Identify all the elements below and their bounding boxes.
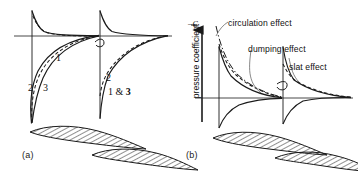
- main-curve-2: [32, 36, 99, 123]
- annotation-circulation-effect: circulation effect: [228, 18, 292, 28]
- main-curve-1: [32, 36, 99, 123]
- y-axis-title: pressure coefficient: [191, 11, 201, 111]
- flap-airfoil: [275, 152, 358, 172]
- dumping-leader-line: [250, 50, 261, 93]
- main-lower-surface-curve: [219, 98, 282, 128]
- flap-suction-solid: [283, 47, 351, 97]
- curve-crossing-loop: [277, 82, 287, 90]
- main-lower-surface-dashed: [33, 16, 99, 36]
- curve-label-2: 2: [28, 82, 33, 93]
- curve-label-flap-1and3: 1 & 3: [108, 86, 131, 97]
- panel-a: 1 2 3 2 1 & 3 (a): [0, 0, 179, 180]
- curve-label-1: 1: [56, 52, 61, 63]
- main-curve-3: [31, 35, 99, 123]
- curve-label-3: 3: [43, 82, 48, 93]
- panel-a-label: (a): [22, 150, 34, 160]
- curve-label-flap-2: 2: [106, 72, 111, 83]
- main-element-airfoil: [30, 126, 146, 149]
- circulation-leader-line: [216, 22, 228, 36]
- annotation-dumping-effect: dumping effect: [248, 44, 306, 54]
- curve-crossing-loop: [95, 39, 104, 47]
- curve-label-1and3-bold: 3: [126, 86, 131, 97]
- annotation-slat-effect: slat effect: [289, 62, 327, 72]
- panel-b-label: (b): [186, 150, 198, 160]
- curve-label-1and3-prefix: 1 &: [108, 86, 126, 97]
- main-lower-surface-curve: [32, 11, 99, 36]
- flap-lower-surface-curve: [283, 98, 351, 124]
- flap-lower-surface-curve: [100, 11, 168, 36]
- figure-container: 1 2 3 2 1 & 3 (a): [0, 0, 358, 180]
